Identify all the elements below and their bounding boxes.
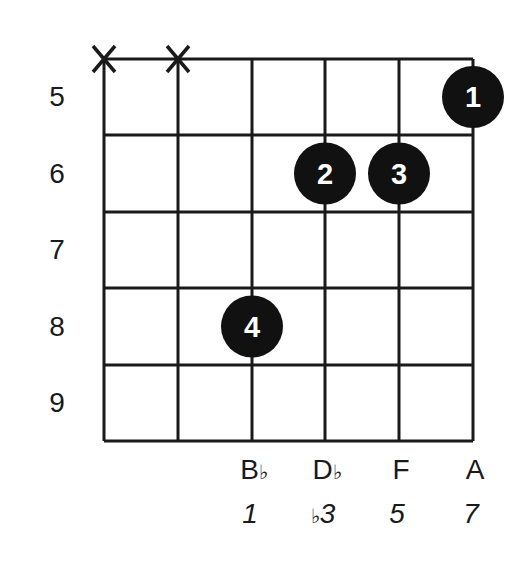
note-name: B♭ [224, 456, 284, 484]
note-name: A [445, 456, 505, 484]
fret-number: 6 [42, 160, 72, 188]
chord-diagram: 1234 [0, 0, 526, 570]
finger-dot: 3 [368, 143, 430, 205]
finger-dot: 1 [442, 66, 504, 128]
interval-degree: 1 [220, 500, 280, 528]
flat-symbol: ♭ [311, 505, 320, 527]
fret-number: 9 [42, 389, 72, 417]
svg-text:4: 4 [244, 311, 260, 343]
flat-symbol: ♭ [333, 461, 342, 483]
flat-symbol: ♭ [259, 461, 268, 483]
fret-number: 5 [42, 83, 72, 111]
fret-number: 7 [42, 236, 72, 264]
finger-dot: 2 [294, 143, 356, 205]
interval-degree: 5 [367, 500, 427, 528]
interval-degree: 7 [441, 500, 501, 528]
finger-dot: 4 [221, 296, 283, 358]
svg-text:1: 1 [465, 81, 481, 113]
svg-text:2: 2 [317, 158, 333, 190]
interval-degree: ♭3 [293, 500, 353, 528]
note-name: D♭ [297, 456, 357, 484]
svg-text:3: 3 [391, 158, 407, 190]
note-name: F [371, 456, 431, 484]
fret-number: 8 [42, 313, 72, 341]
fretboard-grid [104, 59, 473, 441]
